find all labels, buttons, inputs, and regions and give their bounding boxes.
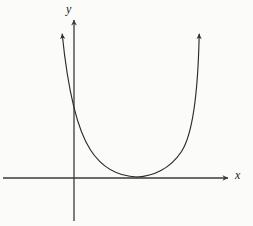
parabola-right-branch [137, 34, 199, 177]
y-axis-label: y [66, 3, 71, 15]
graph-canvas [0, 0, 253, 226]
parabola-figure: x y [0, 0, 253, 226]
x-axis-label: x [235, 169, 240, 181]
